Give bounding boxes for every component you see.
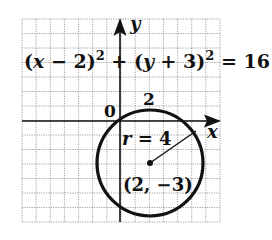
center-label: (2, −3): [123, 174, 193, 195]
radius-label: r = 4: [122, 128, 172, 149]
x-tick-label-2: 2: [143, 89, 155, 109]
center-point: [147, 160, 153, 166]
y-axis-label: y: [129, 13, 142, 34]
x-axis-label: x: [206, 121, 218, 142]
equation-label: (x − 2)2 + (y + 3)2 = 16: [24, 48, 270, 72]
circle-graph: (x − 2)2 + (y + 3)2 = 16 y x 0 2 r = 4 (…: [0, 0, 272, 240]
origin-label: 0: [104, 101, 116, 121]
